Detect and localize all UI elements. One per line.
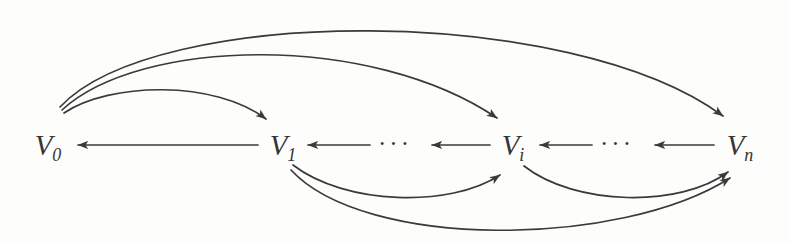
node-label-v0: V0 (35, 131, 62, 160)
ellipsis-left: ··· (378, 131, 412, 156)
node-label-v1: V1 (270, 131, 297, 160)
node-label-vn: Vn (727, 131, 754, 160)
diagram-canvas: V0 V1 Vi Vn ··· ··· (0, 0, 789, 244)
node-subscript-vn: n (744, 145, 753, 165)
node-base-v1: V (270, 129, 288, 161)
node-subscript-v1: 1 (287, 145, 296, 165)
node-base-v0: V (35, 129, 53, 161)
node-label-vi: Vi (502, 131, 525, 160)
edge-v0-to-vi (62, 55, 497, 118)
edge-vi-to-vn (524, 166, 728, 198)
node-subscript-vi: i (519, 145, 524, 165)
edge-v0-to-vn (60, 31, 723, 116)
ellipsis-right: ··· (600, 131, 634, 156)
edge-v1-to-vi (293, 165, 500, 198)
graph-edges-layer (0, 0, 789, 244)
edge-v1-to-vn (291, 170, 730, 230)
node-subscript-v0: 0 (52, 145, 61, 165)
node-base-vi: V (502, 129, 520, 161)
edge-v0-to-v1 (64, 90, 266, 119)
node-base-vn: V (727, 129, 745, 161)
